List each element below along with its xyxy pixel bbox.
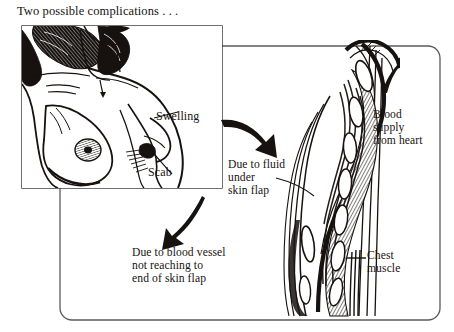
nipple [84, 147, 92, 154]
figure-root: Two possible complications . . . Swellin… [0, 0, 454, 332]
chest-muscle-bands [350, 250, 360, 316]
label-blood-supply: Blood supply from heart [373, 108, 423, 148]
curved-arrow-down-left-icon [162, 196, 205, 250]
flap-edge-vessel-upper [300, 225, 317, 262]
page-title: Two possible complications . . . [17, 4, 178, 18]
flap-edge-vessel-lower [299, 276, 312, 305]
scab-mark [139, 143, 155, 158]
illustration-canvas [0, 0, 454, 332]
curved-arrow-down-right-icon [221, 120, 277, 158]
label-scab: Scab [148, 166, 172, 180]
label-chest-muscle: Chest muscle [367, 249, 400, 275]
label-vessel-cause: Due to blood vessel not reaching to end … [132, 246, 226, 286]
label-fluid-cause: Due to fluid under skin flap [228, 158, 285, 198]
arrow-up-right-icon [382, 54, 406, 93]
torso-illustration-panel [22, 24, 222, 188]
label-swelling: Swelling [156, 110, 199, 124]
